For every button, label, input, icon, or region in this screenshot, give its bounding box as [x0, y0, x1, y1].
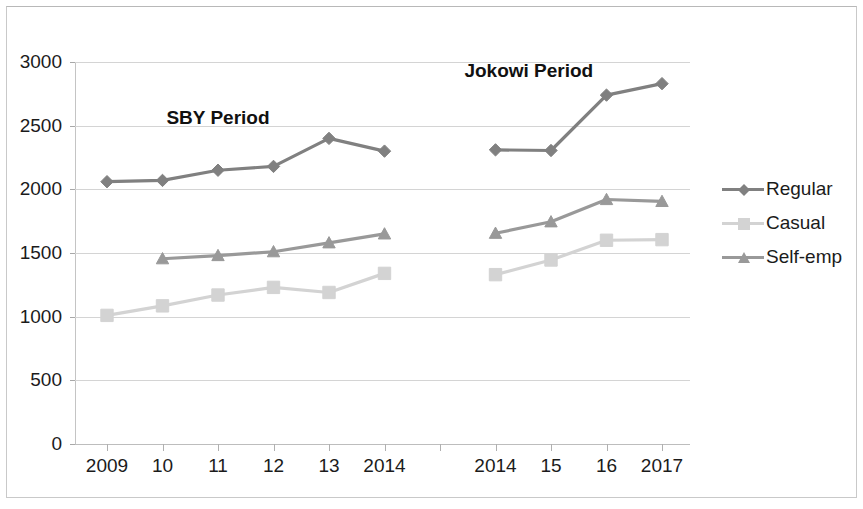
data-point-marker	[267, 281, 279, 293]
legend-swatch	[722, 249, 764, 265]
data-point-marker	[545, 254, 557, 266]
data-point-marker	[600, 234, 612, 246]
data-point-marker	[267, 160, 279, 172]
data-point-marker	[323, 132, 335, 144]
series-line	[107, 273, 385, 315]
x-tick-label: 11	[208, 455, 228, 477]
legend-label: Self-emp	[764, 246, 842, 268]
y-axis-labels: 050010001500200025003000	[0, 62, 62, 444]
x-tick-label: 16	[596, 455, 617, 477]
series-line	[496, 240, 663, 275]
period-label: Jokowi Period	[464, 60, 593, 82]
x-tick-mark	[607, 444, 608, 451]
legend-item-self-emp[interactable]: Self-emp	[722, 240, 857, 274]
data-point-marker	[656, 77, 668, 89]
data-point-marker	[156, 174, 168, 186]
data-point-marker	[378, 267, 390, 279]
x-tick-label: 15	[540, 455, 561, 477]
data-point-marker	[378, 145, 390, 157]
data-point-marker	[156, 300, 168, 312]
data-point-marker	[323, 286, 335, 298]
data-point-marker	[656, 233, 668, 245]
series-line	[107, 138, 385, 181]
series-casual	[101, 233, 668, 321]
legend-label: Regular	[764, 178, 833, 200]
data-point-marker	[212, 289, 224, 301]
x-tick-mark	[551, 444, 552, 451]
x-tick-label: 13	[318, 455, 339, 477]
y-tick-label: 3000	[2, 51, 62, 73]
y-tick-label: 500	[2, 369, 62, 391]
legend-marker-triangle-icon	[737, 251, 751, 265]
chart-figure: 050010001500200025003000 SBY PeriodJokow…	[0, 0, 863, 509]
y-tick-label: 2500	[2, 115, 62, 137]
y-tick-label: 0	[2, 433, 62, 455]
x-tick-mark	[662, 444, 663, 451]
data-point-marker	[489, 144, 501, 156]
x-tick-mark	[274, 444, 275, 451]
plot-area: SBY PeriodJokowi Period	[75, 62, 690, 444]
x-tick-mark	[496, 444, 497, 451]
x-tick-mark	[385, 444, 386, 451]
gridline-0	[75, 444, 690, 445]
y-tick-label: 1000	[2, 306, 62, 328]
period-label: SBY Period	[166, 107, 269, 129]
y-tick-label: 2000	[2, 178, 62, 200]
series-regular	[101, 77, 668, 187]
x-tick-label: 2014	[474, 455, 516, 477]
series-line	[496, 84, 663, 151]
x-tick-label: 2017	[641, 455, 683, 477]
x-tick-mark	[107, 444, 108, 451]
x-tick-label: 10	[152, 455, 173, 477]
x-tick-label: 2014	[363, 455, 405, 477]
data-point-marker	[101, 175, 113, 187]
legend-marker-square-icon	[737, 217, 751, 231]
series-self-emp	[156, 193, 668, 263]
x-tick-mark	[440, 444, 441, 451]
data-point-marker	[212, 164, 224, 176]
legend-item-casual[interactable]: Casual	[722, 206, 857, 240]
y-tick-label: 1500	[2, 242, 62, 264]
legend-marker-diamond-icon	[737, 183, 751, 197]
series-line	[496, 200, 663, 234]
x-tick-label: 12	[263, 455, 284, 477]
legend-swatch	[722, 215, 764, 231]
x-tick-mark	[218, 444, 219, 451]
data-point-marker	[489, 268, 501, 280]
x-tick-label: 2009	[86, 455, 128, 477]
legend-swatch	[722, 181, 764, 197]
legend-item-regular[interactable]: Regular	[722, 172, 857, 206]
x-tick-mark	[163, 444, 164, 451]
chart-legend: RegularCasualSelf-emp	[722, 172, 857, 274]
legend-label: Casual	[764, 212, 825, 234]
data-point-marker	[101, 309, 113, 321]
x-tick-mark	[329, 444, 330, 451]
